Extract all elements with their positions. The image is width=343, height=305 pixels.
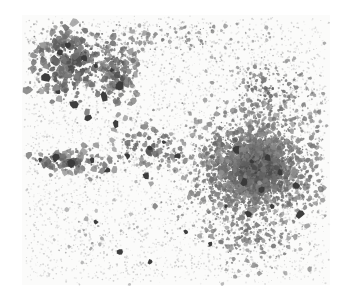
speckle-scan-figure: Speckle density scan Dense irregular fie… (0, 0, 343, 305)
speckle-plate-canvas (0, 0, 343, 305)
